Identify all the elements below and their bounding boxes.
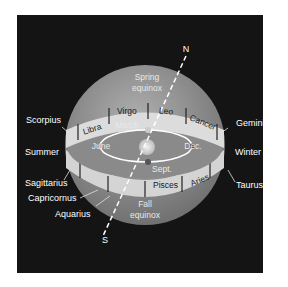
label-summer: Summer [25,147,59,157]
label-aquarius: Aquarius [55,209,91,219]
spring-equinox-label: Spring [135,72,160,82]
fall-equinox-label-2: equinox [130,210,161,220]
orbit-label-june: June [92,141,111,151]
zodiac-pisces: Pisces [153,180,178,190]
orbit-label-march: March [115,120,139,130]
zodiac-leo: Leo [159,105,174,116]
celestial-sphere-diagram: Spring equinox Fall equinox March June S… [0,0,288,287]
label-gemini: Gemini [236,118,265,128]
label-scorpius: Scorpius [26,115,62,125]
orbit-label-dec: Dec. [184,141,201,151]
north-label: N [183,44,190,54]
fall-equinox-label: Fall [138,199,152,209]
label-winter: Winter [235,147,261,157]
spring-equinox-label-2: equinox [132,83,163,93]
label-taurus: Taurus [236,180,264,190]
label-capricornus: Capricornus [28,193,77,203]
orbit-label-sept: Sept. [152,164,172,174]
south-label: S [102,235,108,245]
label-sagittarius: Sagittarius [25,178,68,188]
zodiac-virgo: Virgo [117,106,137,116]
earth-sept-icon [145,159,151,165]
